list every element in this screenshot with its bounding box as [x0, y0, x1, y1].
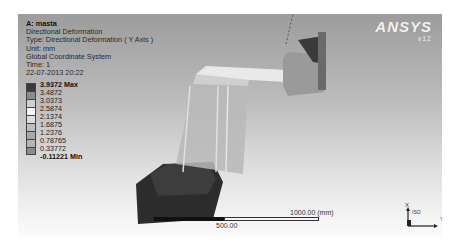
- legend-band: [26, 123, 36, 131]
- legend-band: [26, 91, 36, 99]
- legend-band: [26, 147, 36, 155]
- scale-bar-light: [224, 217, 319, 221]
- graphics-viewport[interactable]: A: masta Directional Deformation Type: D…: [18, 14, 442, 236]
- ansys-logo: ANSYS v12: [375, 18, 432, 42]
- scale-bar-dark: [154, 217, 224, 221]
- logo-brand: ANSYS: [375, 18, 432, 35]
- result-info: A: masta Directional Deformation Type: D…: [26, 20, 153, 77]
- triad-iso-label: ISO: [412, 209, 421, 215]
- legend-band: [26, 83, 36, 91]
- legend-band: [26, 115, 36, 123]
- legend-min: -0.11221 Min: [40, 153, 82, 161]
- triad-y-label: Y: [440, 216, 442, 222]
- scale-end-label: 1000.00 (mm): [290, 209, 334, 216]
- triad-x-label: X: [405, 202, 409, 208]
- scale-mid-label: 500.00: [216, 222, 237, 229]
- legend-band: [26, 99, 36, 107]
- legend-band: [26, 131, 36, 139]
- legend-band: [26, 107, 36, 115]
- legend-labels: 3.9372 Max 3.4872 3.0373 2.5874 2.1374 1…: [40, 81, 82, 161]
- result-date: 22-07-2013 20:22: [26, 69, 153, 77]
- logo-version: v12: [375, 35, 432, 42]
- axis-triad[interactable]: X ISO Y: [396, 204, 442, 234]
- legend-color-bar: [26, 83, 36, 155]
- legend-band: [26, 139, 36, 147]
